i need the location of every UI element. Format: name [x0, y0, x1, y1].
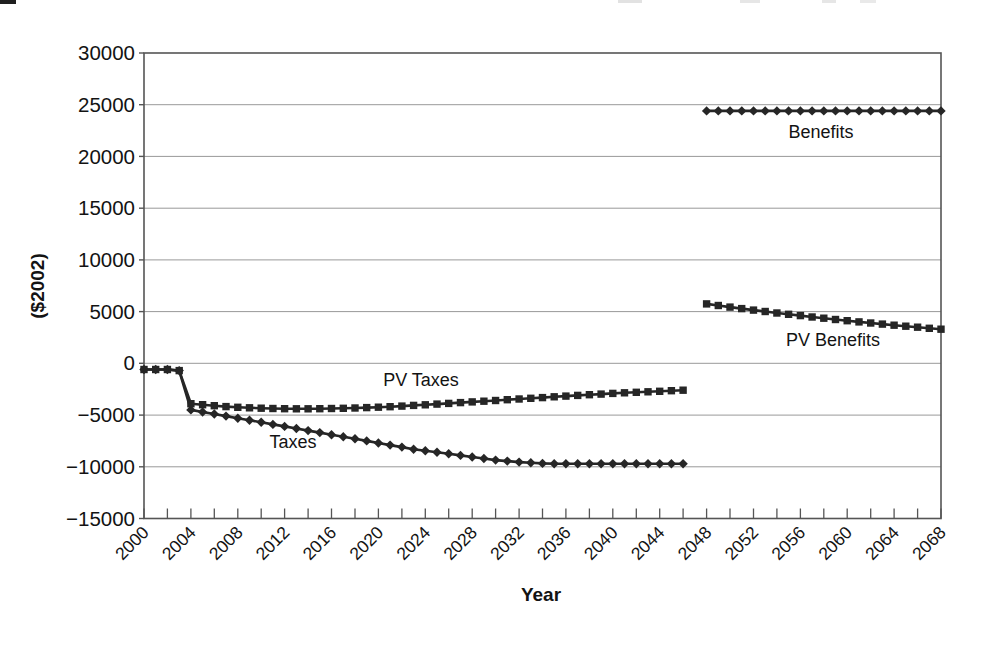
square-marker — [715, 302, 722, 309]
x-tick-label: 2040 — [580, 522, 622, 564]
series-label-taxes: Taxes — [269, 433, 316, 453]
diamond-marker — [339, 432, 348, 441]
diamond-marker — [468, 452, 477, 461]
square-marker — [469, 398, 476, 405]
square-marker — [527, 395, 534, 402]
y-tick-label: 15000 — [78, 196, 135, 219]
diamond-marker — [421, 446, 430, 455]
diamond-marker — [761, 106, 770, 115]
x-tick-label: 2032 — [486, 522, 528, 564]
y-axis: 300002500020000150001000050000−5000−1000… — [66, 41, 144, 530]
square-marker — [258, 405, 265, 412]
square-marker — [855, 318, 862, 325]
scan-artifact-smudge — [740, 0, 760, 3]
x-axis-ticks — [144, 509, 941, 519]
y-tick-label: 25000 — [78, 93, 135, 116]
x-tick-label: 2068 — [908, 522, 950, 564]
y-tick-label: 0 — [124, 351, 135, 374]
diamond-marker — [925, 106, 934, 115]
square-marker — [480, 398, 487, 405]
diamond-marker — [749, 106, 758, 115]
square-marker — [937, 326, 944, 333]
diamond-marker — [503, 456, 512, 465]
diamond-marker — [831, 106, 840, 115]
diamond-marker — [432, 448, 441, 457]
diamond-marker — [819, 106, 828, 115]
square-marker — [633, 389, 640, 396]
square-marker — [234, 404, 241, 411]
square-marker — [246, 404, 253, 411]
diamond-marker — [210, 409, 219, 418]
square-marker — [504, 396, 511, 403]
square-marker — [926, 325, 933, 332]
diamond-marker — [397, 442, 406, 451]
scan-artifact-smudge — [618, 0, 642, 3]
square-marker — [762, 308, 769, 315]
square-marker — [785, 311, 792, 318]
diamond-marker — [280, 422, 289, 431]
x-tick-label: 2056 — [768, 522, 810, 564]
x-tick-label: 2060 — [814, 522, 856, 564]
diamond-marker — [514, 457, 523, 466]
square-marker — [773, 309, 780, 316]
x-axis-title: Year — [521, 584, 561, 606]
diamond-marker — [268, 420, 277, 429]
series-label-benefits: Benefits — [788, 123, 853, 143]
chart-figure: 300002500020000150001000050000−5000−1000… — [0, 0, 985, 646]
square-marker — [340, 405, 347, 412]
diamond-marker — [843, 106, 852, 115]
diamond-marker — [878, 106, 887, 115]
y-tick-label: 30000 — [78, 41, 135, 64]
x-tick-label: 2044 — [627, 522, 669, 564]
x-tick-label: 2052 — [721, 522, 763, 564]
x-tick-label: 2036 — [533, 522, 575, 564]
square-marker — [222, 403, 229, 410]
diamond-marker — [526, 458, 535, 467]
square-marker — [492, 397, 499, 404]
square-marker — [269, 405, 276, 412]
series-label-pv-taxes: PV Taxes — [383, 371, 459, 391]
square-marker — [386, 403, 393, 410]
square-marker — [808, 313, 815, 320]
square-marker — [199, 401, 206, 408]
square-marker — [621, 389, 628, 396]
square-marker — [586, 391, 593, 398]
square-marker — [433, 400, 440, 407]
square-marker — [176, 367, 183, 374]
square-marker — [797, 312, 804, 319]
x-tick-label: 2020 — [346, 522, 388, 564]
square-marker — [597, 390, 604, 397]
square-marker — [679, 387, 686, 394]
square-marker — [445, 400, 452, 407]
scan-artifact-smudge — [860, 0, 876, 3]
square-marker — [890, 322, 897, 329]
square-marker — [726, 303, 733, 310]
diamond-marker — [796, 106, 805, 115]
diamond-marker — [362, 436, 371, 445]
diamond-marker — [456, 451, 465, 460]
diamond-marker — [257, 418, 266, 427]
x-tick-label: 2008 — [205, 522, 247, 564]
square-marker — [398, 402, 405, 409]
x-tick-label: 2012 — [252, 522, 294, 564]
square-marker — [914, 324, 921, 331]
square-marker — [609, 390, 616, 397]
diamond-marker — [409, 445, 418, 454]
square-marker — [832, 316, 839, 323]
square-marker — [375, 404, 382, 411]
square-marker — [820, 315, 827, 322]
square-marker — [281, 405, 288, 412]
x-tick-label: 2016 — [299, 522, 341, 564]
square-marker — [457, 399, 464, 406]
square-marker — [328, 405, 335, 412]
square-marker — [844, 317, 851, 324]
x-tick-label: 2004 — [158, 522, 200, 564]
diamond-marker — [714, 106, 723, 115]
square-marker — [152, 366, 159, 373]
y-tick-label: 5000 — [89, 300, 135, 323]
square-marker — [164, 366, 171, 373]
diamond-marker — [807, 106, 816, 115]
diamond-marker — [221, 411, 230, 420]
square-marker — [738, 305, 745, 312]
square-marker — [668, 387, 675, 394]
